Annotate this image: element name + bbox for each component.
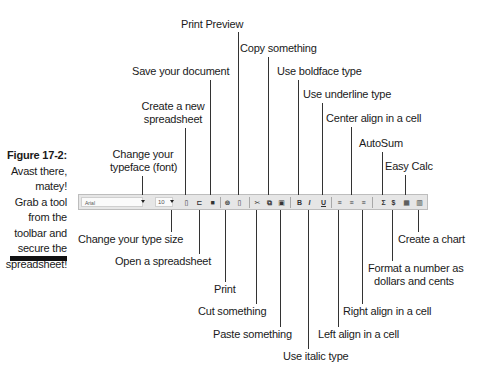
save-icon[interactable]: ■ xyxy=(208,198,217,207)
caption-line: secure the xyxy=(0,241,67,257)
leader-line xyxy=(171,210,172,232)
label-center-align: Center align in a cell xyxy=(326,112,421,125)
font-dropdown-arrow-icon[interactable] xyxy=(141,200,145,203)
leader-line xyxy=(238,32,239,195)
chart-icon[interactable]: ▥ xyxy=(415,198,424,207)
figure-number: Figure 17-2: xyxy=(0,148,67,164)
leader-line xyxy=(382,152,383,195)
label-use-italic: Use italic type xyxy=(283,350,348,363)
label-autosum: AutoSum xyxy=(359,137,403,150)
leader-line xyxy=(308,210,309,349)
toolbar-separator xyxy=(331,197,332,208)
leader-line xyxy=(142,176,143,195)
align-right-icon[interactable]: ≡ xyxy=(359,198,368,207)
leader-line xyxy=(199,210,200,254)
toolbar-separator xyxy=(290,197,291,208)
print-preview-icon[interactable]: ▯ xyxy=(235,198,244,207)
leader-line xyxy=(280,210,281,327)
toolbar-separator xyxy=(372,197,373,208)
print-icon[interactable]: ⊚ xyxy=(223,198,232,207)
caption-divider xyxy=(10,256,67,261)
caption-line: Avast there, xyxy=(0,164,67,180)
leader-line xyxy=(418,210,419,232)
label-copy-something: Copy something xyxy=(240,42,317,55)
caption-line: toolbar and xyxy=(0,226,67,242)
label-use-boldface: Use boldface type xyxy=(277,65,362,78)
label-print: Print xyxy=(214,283,236,296)
label-left-align: Left align in a cell xyxy=(318,328,399,341)
leader-line xyxy=(225,210,226,282)
toolbar-separator xyxy=(220,197,221,208)
label-easy-calc: Easy Calc xyxy=(385,160,433,173)
size-dropdown-arrow-icon[interactable] xyxy=(170,200,174,203)
label-line: dollars and cents xyxy=(374,275,454,287)
label-line: Format a number as xyxy=(368,262,463,274)
formatting-toolbar: Arial 10 ▯ ⊏ ■ ⊚ ▯ ✂ ⧉ ▣ B I U ≡ ≡ ≡ Σ $… xyxy=(78,194,428,210)
leader-line xyxy=(268,57,269,195)
label-line: Change your xyxy=(113,148,174,160)
caption-line: from the xyxy=(0,210,67,226)
label-create-new: Create a new spreadsheet xyxy=(140,100,206,125)
label-paste-something: Paste something xyxy=(213,328,292,341)
open-icon[interactable]: ⊏ xyxy=(195,198,204,207)
label-line: spreadsheet xyxy=(144,113,202,125)
leader-line xyxy=(392,210,393,261)
align-center-icon[interactable]: ≡ xyxy=(347,198,356,207)
leader-line xyxy=(210,80,211,195)
underline-icon[interactable]: U xyxy=(319,198,328,207)
label-format-currency: Format a number as dollars and cents xyxy=(368,262,460,287)
autosum-icon[interactable]: Σ xyxy=(379,198,388,207)
figure-caption: Figure 17-2: Avast there, matey! Grab a … xyxy=(0,148,67,272)
leader-line xyxy=(322,103,323,195)
label-line: Create a new xyxy=(141,100,204,112)
caption-line: Grab a tool xyxy=(0,195,67,211)
copy-icon[interactable]: ⧉ xyxy=(265,198,274,207)
italic-icon[interactable]: I xyxy=(305,198,314,207)
leader-line xyxy=(405,175,406,195)
label-line: typeface (font) xyxy=(110,161,177,173)
cut-icon[interactable]: ✂ xyxy=(253,198,262,207)
leader-line xyxy=(338,210,339,327)
new-icon[interactable]: ▯ xyxy=(182,198,191,207)
label-right-align: Right align in a cell xyxy=(343,305,431,318)
leader-line xyxy=(351,127,352,195)
label-save-document: Save your document xyxy=(132,65,229,78)
label-use-underline: Use underline type xyxy=(303,88,391,101)
label-change-size: Change your type size xyxy=(78,233,183,246)
leader-line xyxy=(298,80,299,195)
align-left-icon[interactable]: ≡ xyxy=(335,198,344,207)
leader-line xyxy=(362,210,363,304)
label-create-chart: Create a chart xyxy=(398,233,465,246)
paste-icon[interactable]: ▣ xyxy=(277,198,286,207)
label-open-spreadsheet: Open a spreadsheet xyxy=(115,255,211,268)
currency-icon[interactable]: $ xyxy=(389,198,398,207)
easy-calc-icon[interactable]: ▦ xyxy=(402,198,411,207)
bold-icon[interactable]: B xyxy=(295,198,304,207)
font-name-select[interactable]: Arial xyxy=(81,197,143,207)
label-change-typeface: Change your typeface (font) xyxy=(110,148,176,173)
label-cut-something: Cut something xyxy=(198,305,266,318)
leader-line xyxy=(185,128,186,195)
label-print-preview: Print Preview xyxy=(181,18,243,31)
toolbar-separator xyxy=(249,197,250,208)
leader-line xyxy=(256,210,257,304)
caption-line: matey! xyxy=(0,179,67,195)
